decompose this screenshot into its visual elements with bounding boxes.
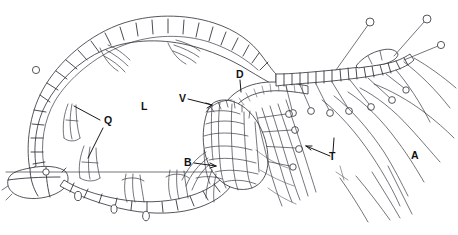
- label-b: B: [184, 157, 192, 168]
- leader-q-upper: [74, 106, 100, 120]
- leader-t-left: [306, 146, 330, 156]
- lower-cell-chain: [32, 66, 230, 220]
- label-d: D: [236, 69, 244, 80]
- appendage-bottom-right: [166, 170, 189, 199]
- apical-filaments: [322, 58, 456, 222]
- paired-appendages: [63, 40, 200, 202]
- label-a: A: [411, 150, 419, 161]
- leader-q-lower: [88, 128, 103, 158]
- appendage-bottom-mid: [122, 174, 144, 202]
- appendage-lower-left: [79, 146, 100, 181]
- figure-root: Q L D V B T A: [0, 0, 458, 235]
- label-v: V: [179, 93, 186, 104]
- anatomical-drawing: [0, 0, 458, 235]
- appendage-upper-left: [63, 104, 80, 141]
- label-t: T: [329, 151, 335, 162]
- label-q: Q: [104, 115, 112, 126]
- label-l: L: [141, 101, 147, 112]
- upper-right-cell-chain: [276, 49, 414, 86]
- left-cell-bulge: [2, 166, 68, 200]
